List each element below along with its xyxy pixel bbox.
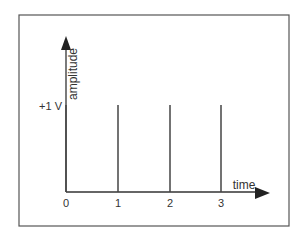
diagram-frame <box>19 15 289 226</box>
x-tick-1: 1 <box>115 197 121 209</box>
y-axis-arrow-icon <box>61 36 71 50</box>
impulse-diagram: +1 V amplitude time 0 1 2 3 <box>0 0 301 237</box>
x-axis-label: time <box>233 178 256 192</box>
x-axis-arrow-icon <box>255 187 270 199</box>
x-tick-0: 0 <box>63 197 69 209</box>
y-axis-label: amplitude <box>66 48 80 100</box>
x-tick-2: 2 <box>167 197 173 209</box>
x-tick-3: 3 <box>218 197 224 209</box>
level-label: +1 V <box>39 100 63 112</box>
